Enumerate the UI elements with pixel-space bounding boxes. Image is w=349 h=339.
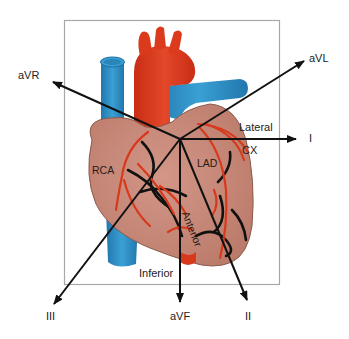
- lead-label-iii: III: [46, 311, 55, 322]
- lead-label-avl: aVL: [309, 53, 329, 64]
- diagram-canvas: [0, 0, 349, 339]
- lead-label-i: I: [309, 133, 312, 144]
- lead-label-avf: aVF: [170, 311, 190, 322]
- artery-label-cx: CX: [242, 145, 257, 156]
- artery-label-lad: LAD: [197, 158, 217, 169]
- region-label-lateral: Lateral: [239, 122, 273, 133]
- region-label-inferior: Inferior: [139, 268, 173, 279]
- lead-label-avr: aVR: [18, 70, 39, 81]
- hexaxial-heart-diagram: aVR aVL I III aVF II Lateral Inferior An…: [0, 0, 349, 339]
- artery-label-rca: RCA: [92, 165, 114, 176]
- lead-label-ii: II: [245, 311, 251, 322]
